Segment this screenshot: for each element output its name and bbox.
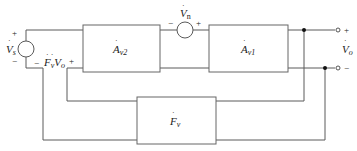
wire-left-feedback-top xyxy=(67,68,137,101)
vn-minus: − xyxy=(168,18,173,28)
feedback-amplifier-diagram: + Vs · − − FvVo · · + Av2 · − Vn · + Av1… xyxy=(0,0,357,151)
output-plus: + xyxy=(344,25,349,35)
output-terminal-minus xyxy=(336,66,340,70)
vn-dot: · xyxy=(182,1,185,10)
feedback-plus: + xyxy=(69,56,74,66)
vn-source-icon xyxy=(177,22,193,38)
vs-minus: − xyxy=(12,56,17,66)
output-terminal-plus xyxy=(336,28,340,32)
vs-source-icon xyxy=(18,41,34,57)
output-dot: · xyxy=(344,36,347,45)
feedback-minus: − xyxy=(34,58,39,68)
vs-label: Vs xyxy=(6,43,16,57)
av1-dot: · xyxy=(243,36,246,45)
av2-dot: · xyxy=(115,36,118,45)
fv-dot: · xyxy=(172,108,175,117)
wire-left-feedback-bottom xyxy=(43,68,137,140)
junction-node-top xyxy=(302,28,306,32)
vs-dot: · xyxy=(8,36,11,45)
vs-plus: + xyxy=(12,28,17,38)
wire-fv-right-bottom xyxy=(216,68,325,140)
output-label: Vo xyxy=(342,43,353,57)
vn-plus: + xyxy=(196,18,201,28)
feedback-dots: · · xyxy=(46,50,53,59)
junction-node-bottom xyxy=(323,66,327,70)
output-minus: − xyxy=(344,63,349,73)
